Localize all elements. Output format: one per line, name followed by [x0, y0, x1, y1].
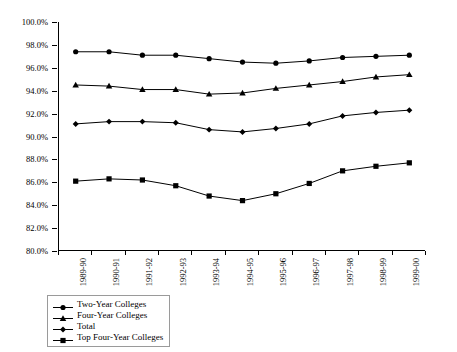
legend-label: Two-Year Colleges	[77, 299, 146, 310]
y-tick-label: 100.0%	[22, 18, 48, 27]
x-tick-label: 1997-98	[346, 258, 355, 286]
y-tick-label: 88.0%	[26, 155, 48, 164]
data-point-circle	[307, 58, 312, 63]
y-tick-label: 82.0%	[26, 224, 48, 233]
data-point-circle	[173, 53, 178, 58]
x-tick-mark	[191, 251, 192, 255]
data-point-diamond	[306, 121, 312, 127]
y-tick-label: 94.0%	[26, 86, 48, 95]
data-point-square	[373, 164, 378, 169]
legend-marker-diamond-icon	[52, 321, 74, 332]
data-point-square	[273, 191, 278, 196]
x-tick-mark	[325, 251, 326, 255]
data-point-square	[60, 338, 65, 343]
data-point-square	[140, 177, 145, 182]
y-tick-label: 96.0%	[26, 64, 48, 73]
y-tick-mark	[52, 205, 57, 206]
y-tick-mark	[52, 228, 57, 229]
plot-area	[58, 22, 425, 251]
x-tick-mark	[358, 251, 359, 255]
data-point-circle	[106, 49, 111, 54]
legend-marker-triangle-icon	[52, 310, 74, 321]
x-tick-mark	[425, 251, 426, 255]
y-tick-mark	[52, 251, 57, 252]
data-point-square	[340, 168, 345, 173]
data-point-square	[106, 176, 111, 181]
y-tick-label: 84.0%	[26, 201, 48, 210]
x-tick-mark	[91, 251, 92, 255]
legend-label: Top Four-Year Colleges	[77, 332, 163, 343]
data-point-diamond	[73, 121, 79, 127]
y-tick-mark	[52, 114, 57, 115]
x-tick-label: 1990-91	[112, 258, 121, 286]
series-line	[76, 110, 410, 132]
y-tick-mark	[52, 68, 57, 69]
series-1	[73, 49, 412, 66]
legend-item-3[interactable]: Total	[52, 321, 163, 332]
x-tick-label: 1989-90	[79, 258, 88, 286]
series-layer	[59, 22, 426, 251]
series-3	[73, 107, 413, 135]
data-point-square	[207, 193, 212, 198]
data-point-diamond	[206, 127, 212, 133]
series-line	[76, 163, 410, 201]
data-point-square	[240, 198, 245, 203]
data-point-diamond	[240, 129, 246, 135]
x-tick-label: 1992-93	[179, 258, 188, 286]
x-tick-mark	[225, 251, 226, 255]
y-tick-label: 90.0%	[26, 132, 48, 141]
legend-marker-circle-icon	[52, 299, 74, 310]
legend-item-2[interactable]: Four-Year Colleges	[52, 310, 163, 321]
data-point-diamond	[106, 119, 112, 125]
data-point-square	[173, 183, 178, 188]
data-point-triangle	[406, 71, 413, 77]
x-tick-label: 1998-99	[379, 258, 388, 286]
x-tick-mark	[125, 251, 126, 255]
data-point-circle	[407, 53, 412, 58]
x-tick-label: 1991-92	[145, 258, 154, 286]
x-tick-mark	[258, 251, 259, 255]
legend-label: Total	[77, 321, 95, 332]
y-tick-label: 80.0%	[26, 247, 48, 256]
data-point-circle	[373, 54, 378, 59]
y-tick-mark	[52, 22, 57, 23]
x-tick-label: 1993-94	[212, 258, 221, 286]
data-point-circle	[140, 53, 145, 58]
y-tick-mark	[52, 137, 57, 138]
series-4	[73, 160, 412, 203]
y-tick-mark	[52, 159, 57, 160]
y-axis: 100.0%98.0%96.0%94.0%92.0%90.0%88.0%86.0…	[0, 0, 58, 252]
x-tick-mark	[292, 251, 293, 255]
legend-item-4[interactable]: Top Four-Year Colleges	[52, 332, 163, 343]
data-point-diamond	[273, 125, 279, 131]
data-point-square	[407, 160, 412, 165]
data-point-diamond	[340, 113, 346, 119]
chart-legend: Two-Year CollegesFour-Year CollegesTotal…	[47, 295, 170, 347]
data-point-diamond	[373, 109, 379, 115]
data-point-square	[307, 181, 312, 186]
x-tick-mark	[58, 251, 59, 255]
y-tick-mark	[52, 45, 57, 46]
x-tick-label: 1999-00	[412, 258, 421, 286]
data-point-diamond	[173, 120, 179, 126]
data-point-diamond	[139, 119, 145, 125]
y-tick-label: 98.0%	[26, 41, 48, 50]
legend-label: Four-Year Colleges	[77, 310, 147, 321]
x-tick-mark	[158, 251, 159, 255]
data-point-circle	[240, 59, 245, 64]
y-tick-label: 86.0%	[26, 178, 48, 187]
data-point-circle	[273, 61, 278, 66]
data-point-circle	[340, 55, 345, 60]
x-tick-mark	[392, 251, 393, 255]
line-chart: 100.0%98.0%96.0%94.0%92.0%90.0%88.0%86.0…	[0, 0, 457, 352]
data-point-circle	[73, 49, 78, 54]
y-tick-mark	[52, 91, 57, 92]
data-point-square	[73, 179, 78, 184]
x-tick-label: 1995-96	[279, 258, 288, 286]
x-tick-label: 1994-95	[246, 258, 255, 286]
x-axis: 1989-901990-911991-921992-931993-941994-…	[58, 251, 425, 295]
series-2	[72, 71, 412, 96]
legend-item-1[interactable]: Two-Year Colleges	[52, 299, 163, 310]
data-point-diamond	[406, 107, 412, 113]
legend-marker-square-icon	[52, 332, 74, 343]
